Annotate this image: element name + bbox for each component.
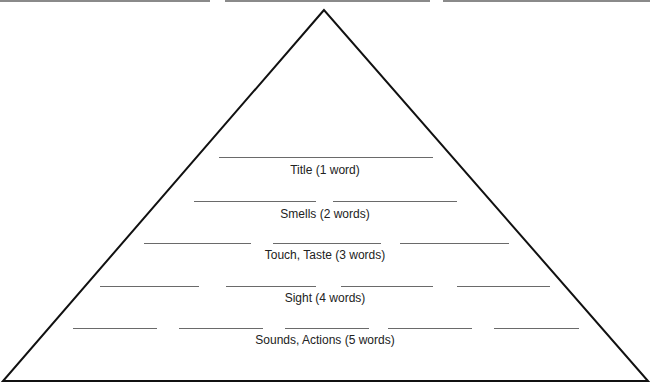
word-blank-line[interactable] xyxy=(285,328,369,329)
word-blank-line[interactable] xyxy=(457,286,550,287)
word-blank-line[interactable] xyxy=(73,328,157,329)
word-blank-line[interactable] xyxy=(388,328,472,329)
word-blank-line[interactable] xyxy=(194,201,316,202)
level-label-smells: Smells (2 words) xyxy=(0,207,650,221)
word-blank-line[interactable] xyxy=(494,328,579,329)
word-blank-line[interactable] xyxy=(100,286,199,287)
word-blank-line[interactable] xyxy=(226,286,316,287)
pyramid-triangle xyxy=(3,10,648,381)
word-blank-line[interactable] xyxy=(144,243,251,244)
header-blank-line[interactable] xyxy=(0,0,210,2)
word-blank-line[interactable] xyxy=(341,286,433,287)
word-blank-line[interactable] xyxy=(333,201,457,202)
word-blank-line[interactable] xyxy=(400,243,509,244)
word-blank-line[interactable] xyxy=(179,328,263,329)
level-label-sounds-actions: Sounds, Actions (5 words) xyxy=(0,333,650,347)
word-blank-line[interactable] xyxy=(219,157,433,158)
header-blank-line[interactable] xyxy=(443,0,650,2)
level-label-touch-taste: Touch, Taste (3 words) xyxy=(0,248,650,262)
pyramid-outline xyxy=(0,0,650,383)
header-blank-line[interactable] xyxy=(225,0,430,2)
level-label-sight: Sight (4 words) xyxy=(0,291,650,305)
level-label-title: Title (1 word) xyxy=(0,163,650,177)
word-blank-line[interactable] xyxy=(273,243,381,244)
